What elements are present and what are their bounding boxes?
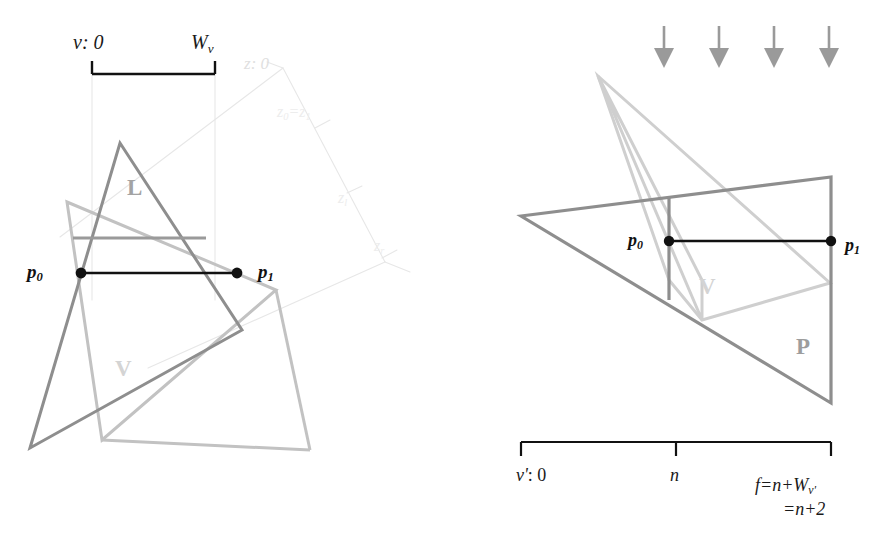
ruler-end-label-line2: =n+2 bbox=[783, 500, 825, 518]
view-frustum-label: V bbox=[699, 275, 716, 298]
point-p0-label: p0 bbox=[628, 231, 643, 252]
post-perspective-label: P bbox=[796, 335, 810, 358]
figure-canvas: v: 0 Wv z: 0 z0=z1 zl zr L V p0 p1 bbox=[0, 0, 883, 538]
ruler-end-label-line1: f=n+Wv' bbox=[755, 476, 816, 497]
ruler-start-label: v': 0 bbox=[516, 466, 546, 484]
point-p1-label: p1 bbox=[845, 236, 860, 257]
right-ruler-bracket bbox=[0, 0, 883, 538]
ruler-mid-label: n bbox=[670, 466, 679, 484]
